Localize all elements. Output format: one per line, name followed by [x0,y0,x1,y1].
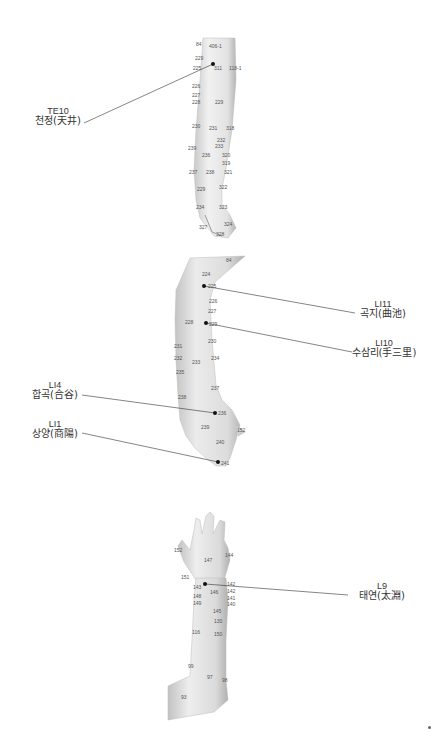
point-label: 143 [193,585,201,590]
page-mark [428,726,431,729]
point-label: 116 [192,630,200,635]
point-label: 152 [174,548,182,553]
point-label: 146 [210,590,218,595]
point-label: 97 [207,675,213,680]
point-label: 145 [213,609,221,614]
point-label: 151 [181,575,189,580]
point-label: 93 [181,695,187,700]
acupoint-name: 태연(太淵) [348,591,416,602]
point-label: 99 [188,664,194,669]
point-label: 140 [227,602,235,607]
point-label: 148 [193,594,201,599]
point-label: 142 [227,589,235,594]
point-label: 149 [193,601,201,606]
point-label: 147 [204,558,212,563]
point-label: 98 [222,678,228,683]
point-label: 142 [227,582,235,587]
point-label: 130 [214,619,222,624]
point-label: 144 [225,553,233,558]
figure-arm-anterior: 152 144 147 151 142 143 146 142 148 141 … [0,0,433,732]
callout-l9: L9 태연(太淵) [348,582,416,602]
point-label: 150 [214,632,222,637]
